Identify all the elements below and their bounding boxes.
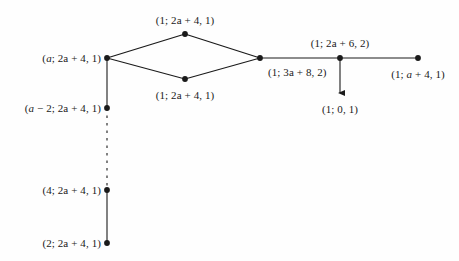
label-far-right: (1; a + 4, 1) <box>391 69 445 80</box>
label-left-apex: (a; 2a + 4, 1) <box>42 53 101 64</box>
node-bottom-diamond <box>182 76 188 82</box>
label-chain-third: (4; 2a + 4, 1) <box>42 185 101 196</box>
node-chain-fourth <box>104 240 110 246</box>
graph-canvas <box>0 0 459 261</box>
label-chain-second: (a − 2; 2a + 4, 1) <box>25 103 101 114</box>
label-top-diamond: (1; 2a + 4, 1) <box>156 15 215 26</box>
node-right-apex <box>257 55 263 61</box>
label-arrow-target: (1; 0, 1) <box>322 104 358 115</box>
node-top-diamond <box>182 31 188 37</box>
label-right-apex: (1; 3a + 8, 2) <box>268 67 327 78</box>
edge-left-to-bottom <box>107 58 185 79</box>
label-chain-fourth: (2; 2a + 4, 1) <box>42 238 101 249</box>
edge-top-to-right <box>185 34 260 58</box>
node-chain-third <box>104 187 110 193</box>
node-chain-second <box>104 105 110 111</box>
edge-left-to-top <box>107 34 185 58</box>
label-bottom-diamond: (1; 2a + 4, 1) <box>156 90 215 101</box>
graph-diagram: (1; 2a + 4, 1) (a; 2a + 4, 1) (1; 2a + 4… <box>0 0 459 261</box>
node-far-right <box>415 55 421 61</box>
edges-group <box>107 34 418 243</box>
nodes-group <box>104 31 421 246</box>
label-upper-right: (1; 2a + 6, 2) <box>311 38 370 49</box>
node-upper-right <box>337 55 343 61</box>
node-left-apex <box>104 55 110 61</box>
edge-bottom-to-right <box>185 58 260 79</box>
